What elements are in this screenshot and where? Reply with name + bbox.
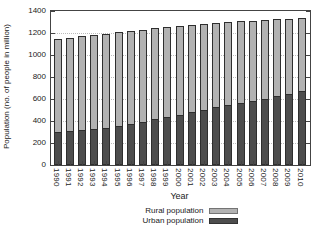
x-tick-mark xyxy=(204,161,205,165)
bar-segment-rural-1993 xyxy=(90,35,98,130)
y-tick-mark xyxy=(51,33,55,34)
bar-segment-urban-1998 xyxy=(151,119,159,165)
x-tick-label-1996: 1996 xyxy=(125,168,134,187)
bar-segment-rural-1997 xyxy=(139,30,147,123)
y-tick-mark xyxy=(306,33,310,34)
y-tick-mark xyxy=(306,55,310,56)
x-tick-mark xyxy=(192,161,193,165)
population-stacked-bar-chart: Population (no. of people in million) 02… xyxy=(0,0,316,239)
bar-segment-rural-2003 xyxy=(212,23,220,108)
y-tick-mark xyxy=(306,11,310,12)
legend: Rural populationUrban population xyxy=(50,206,309,225)
y-tick-label-1200: 1200 xyxy=(18,28,46,37)
y-tick-label-0: 0 xyxy=(18,160,46,169)
bar-segment-rural-1998 xyxy=(151,28,159,120)
y-tick-mark xyxy=(51,11,55,12)
x-tick-label-2001: 2001 xyxy=(186,168,195,187)
x-tick-mark xyxy=(289,161,290,165)
x-tick-mark xyxy=(265,161,266,165)
x-tick-label-2004: 2004 xyxy=(222,168,231,187)
y-tick-mark xyxy=(306,165,310,166)
x-tick-mark xyxy=(58,161,59,165)
x-tick-label-1992: 1992 xyxy=(76,168,85,187)
x-tick-mark xyxy=(155,161,156,165)
x-tick-label-2000: 2000 xyxy=(174,168,183,187)
x-tick-mark xyxy=(167,161,168,165)
x-tick-label-2002: 2002 xyxy=(198,168,207,187)
x-tick-mark xyxy=(82,161,83,165)
bar-segment-urban-2008 xyxy=(273,96,281,165)
y-tick-mark xyxy=(51,165,55,166)
y-tick-label-600: 600 xyxy=(18,94,46,103)
bar-segment-urban-1991 xyxy=(66,131,74,165)
x-tick-mark xyxy=(94,161,95,165)
bar-segment-rural-2010 xyxy=(298,18,306,93)
bar-segment-rural-1994 xyxy=(102,34,110,129)
x-tick-label-2007: 2007 xyxy=(259,168,268,187)
bar-segment-urban-1995 xyxy=(115,126,123,165)
y-tick-label-1400: 1400 xyxy=(18,6,46,15)
legend-label: Urban population xyxy=(124,216,204,225)
x-tick-label-1994: 1994 xyxy=(100,168,109,187)
x-tick-mark xyxy=(216,161,217,165)
bar-segment-urban-2002 xyxy=(200,110,208,165)
bar-segment-urban-2010 xyxy=(298,91,306,165)
x-tick-label-1991: 1991 xyxy=(64,168,73,187)
bar-segment-rural-2001 xyxy=(188,25,196,113)
bar-segment-urban-1994 xyxy=(102,128,110,166)
y-tick-mark xyxy=(306,99,310,100)
bar-segment-urban-1992 xyxy=(78,130,86,165)
bar-segment-urban-2009 xyxy=(285,94,293,165)
x-tick-mark xyxy=(228,161,229,165)
legend-label: Rural population xyxy=(124,206,204,215)
y-tick-mark xyxy=(306,77,310,78)
bar-segment-urban-2000 xyxy=(176,115,184,165)
bar-segment-rural-2000 xyxy=(176,26,184,116)
bar-segment-rural-2005 xyxy=(237,21,245,104)
x-tick-label-1990: 1990 xyxy=(52,168,61,187)
x-tick-mark xyxy=(70,161,71,165)
x-tick-label-2003: 2003 xyxy=(210,168,219,187)
bar-segment-rural-2004 xyxy=(224,22,232,106)
legend-row: Rural population xyxy=(124,206,236,215)
bar-segment-rural-2002 xyxy=(200,24,208,111)
bar-segment-rural-1992 xyxy=(78,36,86,131)
bar-segment-urban-2006 xyxy=(249,101,257,165)
y-tick-label-400: 400 xyxy=(18,116,46,125)
legend-swatch-rural xyxy=(209,208,238,214)
x-tick-label-1997: 1997 xyxy=(137,168,146,187)
bar-segment-rural-2008 xyxy=(273,19,281,97)
x-tick-label-2010: 2010 xyxy=(296,168,305,187)
x-tick-label-1999: 1999 xyxy=(161,168,170,187)
x-tick-label-1998: 1998 xyxy=(149,168,158,187)
bar-segment-rural-1996 xyxy=(127,31,135,125)
bar-segment-urban-2001 xyxy=(188,112,196,165)
legend-swatch-urban xyxy=(209,218,238,224)
x-tick-label-2009: 2009 xyxy=(283,168,292,187)
y-tick-mark xyxy=(306,121,310,122)
bar-segment-urban-2005 xyxy=(237,103,245,165)
x-tick-mark xyxy=(302,161,303,165)
bar-segment-rural-2006 xyxy=(249,21,257,102)
x-tick-mark xyxy=(241,161,242,165)
x-tick-label-2005: 2005 xyxy=(235,168,244,187)
plot-area xyxy=(50,10,311,166)
bar-segment-urban-2003 xyxy=(212,107,220,165)
x-axis-label: Year xyxy=(50,191,309,201)
y-tick-label-1000: 1000 xyxy=(18,50,46,59)
bar-segment-rural-2007 xyxy=(261,20,269,100)
y-tick-label-800: 800 xyxy=(18,72,46,81)
legend-row: Urban population xyxy=(124,216,236,225)
bar-segment-urban-1997 xyxy=(139,122,147,165)
x-tick-mark xyxy=(253,161,254,165)
bar-segment-rural-1990 xyxy=(54,39,62,133)
x-tick-mark xyxy=(277,161,278,165)
bar-segment-rural-1991 xyxy=(66,38,74,132)
bar-segment-urban-1993 xyxy=(90,129,98,165)
bar-segment-urban-1996 xyxy=(127,124,135,165)
x-tick-mark xyxy=(143,161,144,165)
bar-segment-rural-1999 xyxy=(163,27,171,118)
bar-segment-urban-2004 xyxy=(224,105,232,165)
x-tick-mark xyxy=(106,161,107,165)
y-tick-mark xyxy=(306,143,310,144)
